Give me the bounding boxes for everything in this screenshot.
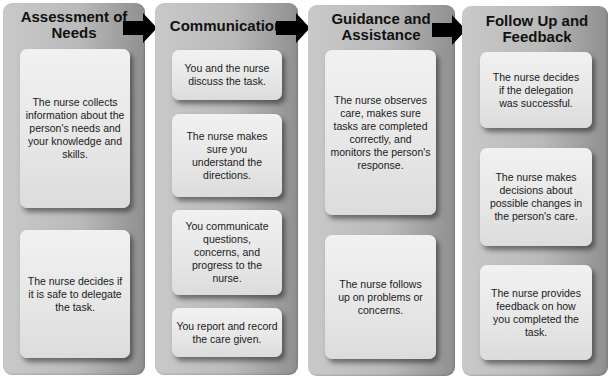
column-follow-up-and-feedback: Follow Up and Feedback The nurse decides… bbox=[462, 6, 608, 376]
step-card: You and the nurse discuss the task. bbox=[172, 50, 282, 100]
column-title: Assessment of Needs bbox=[19, 9, 129, 41]
step-card: The nurse observes care, makes sure task… bbox=[325, 50, 436, 215]
column-title: Guidance and Assistance bbox=[326, 11, 436, 43]
arrow-right-icon bbox=[432, 15, 466, 45]
column-title: Follow Up and Feedback bbox=[482, 13, 592, 45]
step-card: The nurse decides if the delegation was … bbox=[480, 52, 592, 128]
arrow-right-icon bbox=[123, 13, 157, 43]
step-card: The nurse makes decisions about possible… bbox=[480, 148, 592, 246]
step-card: You report and record the care given. bbox=[172, 308, 282, 357]
step-card: You communicate questions, concerns, and… bbox=[172, 210, 282, 295]
arrow-right-icon bbox=[276, 13, 310, 43]
column-guidance-and-assistance: Guidance and Assistance The nurse observ… bbox=[308, 5, 455, 376]
step-card: The nurse provides feedback on how you c… bbox=[480, 265, 592, 360]
step-card: The nurse collects information about the… bbox=[20, 49, 130, 208]
column-communication: Communication You and the nurse discuss … bbox=[155, 3, 298, 375]
column-assessment-of-needs: Assessment of Needs The nurse collects i… bbox=[3, 3, 145, 375]
step-card: The nurse decides if it is safe to deleg… bbox=[20, 230, 130, 358]
step-card: The nurse makes sure you understand the … bbox=[172, 114, 282, 197]
step-card: The nurse follows up on problems or conc… bbox=[325, 235, 436, 359]
